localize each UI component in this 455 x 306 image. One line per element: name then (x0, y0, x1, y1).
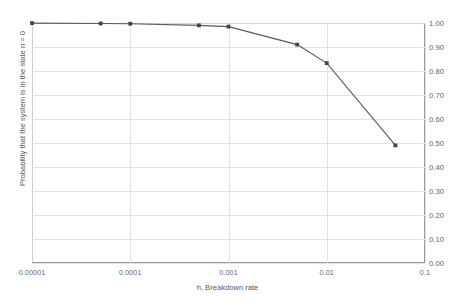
data-point (394, 144, 398, 148)
series-line (32, 23, 395, 145)
series-markers (30, 21, 397, 147)
data-point (295, 43, 299, 47)
data-series (32, 23, 425, 263)
data-point (30, 21, 34, 25)
y-tick-label: 0.20 (429, 211, 444, 220)
x-tick-label: 0.00001 (19, 268, 46, 277)
y-tick-label: 0.60 (429, 115, 444, 124)
y-tick-label: 1.00 (429, 19, 444, 28)
y-axis-title: Probability that the system is in the st… (18, 0, 27, 224)
y-tick-label: 0.70 (429, 91, 444, 100)
y-tick-label: 0.50 (429, 139, 444, 148)
chart-container: 0.000.100.200.300.400.500.600.700.800.90… (0, 0, 455, 306)
x-tick-label: 0.001 (219, 268, 238, 277)
gridline-horizontal (32, 263, 425, 264)
y-tick-label: 0.10 (429, 235, 444, 244)
data-point (227, 25, 231, 29)
x-axis-title: h, Breakdown rate (0, 283, 455, 292)
y-tick-label: 0.40 (429, 163, 444, 172)
plot-area (32, 23, 425, 263)
y-tick-label: 0.80 (429, 67, 444, 76)
data-point (128, 22, 132, 26)
data-point (325, 61, 329, 65)
y-tick-label: 0.00 (429, 259, 444, 268)
data-point (197, 24, 201, 28)
x-tick-label: 0.01 (320, 268, 334, 277)
x-tick-label: 0.1 (420, 268, 430, 277)
gridline-vertical (425, 23, 426, 263)
data-point (99, 22, 103, 26)
y-tick-label: 0.90 (429, 43, 444, 52)
y-tick-label: 0.30 (429, 187, 444, 196)
x-tick-label: 0.0001 (119, 268, 142, 277)
